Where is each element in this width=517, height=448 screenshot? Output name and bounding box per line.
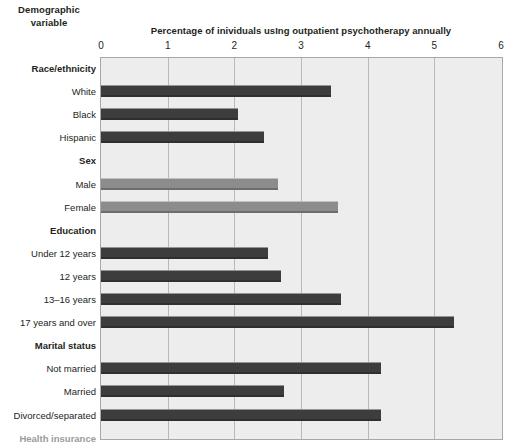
row-label-12-years: 12 years [0, 271, 96, 282]
bar-under-12-years [101, 247, 268, 259]
group-label-sex: Sex [0, 155, 96, 166]
x-tick-label-4: 4 [356, 40, 380, 51]
row-label-13-16-years: 13–16 years [0, 294, 96, 305]
bar-17-years-and-over [101, 316, 454, 328]
x-tick-label-1: 1 [156, 40, 180, 51]
row-label-married: Married [0, 386, 96, 397]
group-label-health-insurance: Health insurance [0, 433, 96, 444]
row-label-male: Male [0, 179, 96, 190]
demographic-variable-column-header: Demographic variable [0, 4, 98, 29]
plot-area [100, 57, 503, 440]
row-label-column: Race/ethnicityWhiteBlackHispanicSexMaleF… [0, 57, 96, 440]
x-axis-tick-labels: 0123456 [100, 40, 503, 56]
chart-title: Percentage of inividuals usIng outpatien… [100, 25, 502, 36]
row-label-female: Female [0, 202, 96, 213]
row-label-under-12-years: Under 12 years [0, 248, 96, 259]
bar-black [101, 108, 238, 120]
x-tick-label-0: 0 [89, 40, 113, 51]
x-tick-label-2: 2 [222, 40, 246, 51]
bar-hispanic [101, 131, 264, 143]
bar-female [101, 201, 338, 213]
group-label-race-ethnicity: Race/ethnicity [0, 63, 96, 74]
row-label-hispanic: Hispanic [0, 132, 96, 143]
gridline-4 [368, 58, 369, 439]
x-tick-label-3: 3 [289, 40, 313, 51]
row-label-17-years-and-over: 17 years and over [0, 317, 96, 328]
chart-figure: Demographic variable Percentage of inivi… [0, 0, 517, 448]
row-label-black: Black [0, 109, 96, 120]
x-tick-label-5: 5 [422, 40, 446, 51]
group-label-education: Education [0, 225, 96, 236]
gridline-5 [434, 58, 435, 439]
bar-married [101, 385, 284, 397]
row-label-divorced-separated: Divorced/separated [0, 410, 96, 421]
bar-male [101, 178, 278, 190]
column-header-line-2: variable [0, 17, 98, 30]
row-label-white: White [0, 86, 96, 97]
gridline-3 [301, 58, 302, 439]
bar-13-16-years [101, 293, 341, 305]
x-tick-label-6: 6 [489, 40, 513, 51]
group-label-marital-status: Marital status [0, 340, 96, 351]
bar-divorced-separated [101, 409, 381, 421]
bar-12-years [101, 270, 281, 282]
bar-white [101, 85, 331, 97]
column-header-line-1: Demographic [0, 4, 98, 17]
bar-not-married [101, 362, 381, 374]
row-label-not-married: Not married [0, 363, 96, 374]
